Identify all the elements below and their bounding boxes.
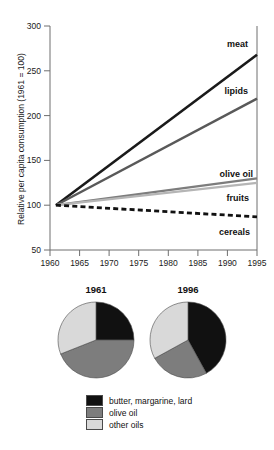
pie-legend: butter, margarine, lard olive oil other …	[86, 395, 256, 431]
series-line-lipids	[56, 99, 257, 206]
x-axis-tick-labels: 1960 1965 1970 1975 1980 1985 1990 1995	[41, 258, 267, 268]
y-tick-label-150: 150	[27, 155, 41, 165]
y-tick-label-100: 100	[27, 200, 41, 210]
pie-1996-svg	[148, 300, 228, 380]
x-tick-label-1965: 1965	[70, 258, 89, 268]
y-tick-label-250: 250	[27, 66, 41, 76]
y-tick-label-50: 50	[32, 245, 42, 255]
y-tick-label-200: 200	[27, 111, 41, 121]
pie-chart-1961	[56, 300, 136, 384]
pie-chart-1996	[148, 300, 228, 384]
series-label-meat: meat	[227, 39, 248, 49]
legend-item-olive-oil: olive oil	[86, 407, 256, 418]
legend-item-butter-margarine-lard: butter, margarine, lard	[86, 395, 256, 406]
legend-label-other-oils: other oils	[109, 420, 144, 430]
pie-title-1996: 1996	[158, 284, 218, 295]
x-tick-label-1960: 1960	[41, 258, 60, 268]
pie-section: 1961 1996 butter, margarine, lard olive …	[0, 282, 274, 450]
x-tick-label-1970: 1970	[100, 258, 119, 268]
pie-title-1961: 1961	[66, 284, 126, 295]
y-axis-tick-labels: 300 250 200 150 100 50	[27, 21, 41, 255]
line-chart: Relative per capita consumption (1961 = …	[0, 0, 274, 282]
x-axis-ticks	[50, 250, 257, 256]
legend-label-butter-margarine-lard: butter, margarine, lard	[109, 396, 192, 406]
series-label-fruits: fruits	[227, 193, 250, 203]
x-tick-label-1995: 1995	[248, 258, 267, 268]
x-tick-label-1980: 1980	[159, 258, 178, 268]
series-label-lipids: lipids	[224, 86, 248, 96]
y-axis-label: Relative per capita consumption (1961 = …	[16, 53, 26, 225]
legend-item-other-oils: other oils	[86, 419, 256, 430]
pie-slice-butter-margarine-lard	[96, 302, 134, 340]
x-tick-label-1975: 1975	[129, 258, 148, 268]
legend-swatch-butter-margarine-lard	[86, 395, 103, 406]
legend-swatch-olive-oil	[86, 407, 103, 418]
pie-1961-svg	[56, 300, 136, 380]
series-line-cereals	[56, 205, 257, 217]
x-tick-label-1990: 1990	[218, 258, 237, 268]
line-chart-svg: Relative per capita consumption (1961 = …	[0, 0, 274, 282]
series-label-cereals: cereals	[219, 227, 250, 237]
x-tick-label-1985: 1985	[188, 258, 207, 268]
legend-swatch-other-oils	[86, 419, 103, 430]
y-tick-label-300: 300	[27, 21, 41, 31]
series-label-olive-oil: olive oil	[219, 169, 253, 179]
legend-label-olive-oil: olive oil	[109, 408, 137, 418]
y-axis-ticks	[44, 26, 50, 250]
